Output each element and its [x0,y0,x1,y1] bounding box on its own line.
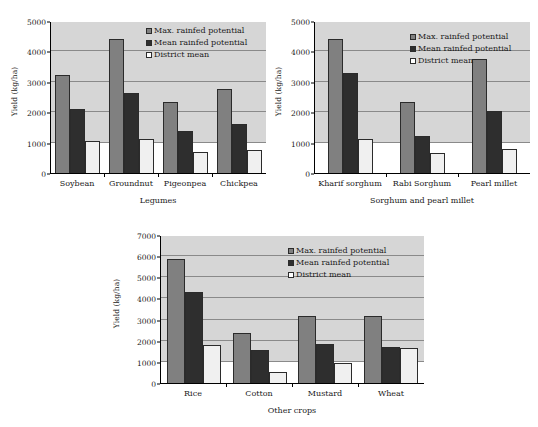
y-axis-title-text: Yield (kg/ha) [275,66,284,116]
legend-swatch-icon [146,52,152,58]
chart-panel-legumes: Yield (kg/ha)010002000300040005000Soybea… [8,8,270,216]
bar-district-mean [193,152,208,173]
legend-label: District mean [296,270,351,279]
x-axis-tick-label: Cotton [226,389,292,398]
x-axis-tick-mark [292,384,293,387]
y-axis-ticks: 010002000300040005000 [288,8,314,216]
x-axis-tick-mark [158,174,159,177]
y-axis-title: Yield (kg/ha) [110,222,124,384]
bar-district-mean [247,150,262,173]
y-axis-tick-label: 0 [151,380,156,389]
bar-district-mean [269,372,287,383]
x-axis-tick-label: Mustard [292,389,358,398]
legend-item: Mean rainfed potential [410,44,511,53]
bar-district-mean [358,139,373,173]
chart-legend: Max. rainfed potentialMean rainfed poten… [410,32,511,65]
bar-group [161,236,227,383]
bar-mean-rainfed-potential [382,347,400,383]
bar-group [227,236,293,383]
y-axis-tick-label: 3000 [291,78,310,87]
bar-max-rainfed-potential [55,75,70,173]
bar-district-mean [502,149,517,173]
bar-max-rainfed-potential [364,316,382,383]
x-axis-tick-mark [104,174,105,177]
y-axis-tick-label: 3000 [137,316,156,325]
bar-max-rainfed-potential [217,89,232,173]
x-axis-tick-label: Pearl millet [458,179,530,188]
bar-district-mean [203,345,221,383]
x-axis-tick-mark [386,174,387,177]
bar-mean-rainfed-potential [232,124,247,173]
bar-mean-rainfed-potential [70,109,85,173]
y-axis-tick-label: 2000 [291,109,310,118]
bar-max-rainfed-potential [400,102,415,173]
x-axis-tick-mark [212,174,213,177]
x-axis-tick-label: Pigeonpea [158,179,212,188]
legend-label: District mean [154,50,209,59]
legend-label: Mean rainfed potential [418,44,511,53]
y-axis-tick-label: 1000 [291,139,310,148]
bar-mean-rainfed-potential [316,344,334,383]
y-axis-tick-label: 5000 [27,18,46,27]
y-axis-ticks: 01000200030004000500060007000 [134,222,160,422]
chart-panel-sorghum-pearl-millet: Yield (kg/ha)010002000300040005000Kharif… [272,8,534,216]
x-axis-title: Legumes [50,196,266,205]
bar-mean-rainfed-potential [487,111,502,173]
bar-district-mean [430,153,445,173]
y-axis-tick-label: 1000 [137,358,156,367]
bar-max-rainfed-potential [298,316,316,383]
x-axis-tick-label: Groundnut [104,179,158,188]
x-axis-tick-mark [226,384,227,387]
x-axis-tick-label: Chickpea [212,179,266,188]
y-axis-title: Yield (kg/ha) [272,8,286,174]
x-axis-tick-label: Kharif sorghum [314,179,386,188]
y-axis-tick-label: 2000 [137,337,156,346]
chart-legend: Max. rainfed potentialMean rainfed poten… [288,246,389,279]
x-axis-tick-label: Wheat [358,389,424,398]
legend-label: Max. rainfed potential [418,32,508,41]
x-axis-tick-labels: RiceCottonMustardWheat [160,389,424,398]
bar-mean-rainfed-potential [343,73,358,173]
bar-max-rainfed-potential [328,39,343,173]
legend-item: District mean [288,270,389,279]
y-axis-title-text: Yield (kg/ha) [11,66,20,116]
y-axis-title: Yield (kg/ha) [8,8,22,174]
y-axis-tick-label: 4000 [137,295,156,304]
legend-swatch-icon [146,28,152,34]
legend-swatch-icon [146,40,152,46]
y-axis-tick-label: 2000 [27,109,46,118]
legend-item: Max. rainfed potential [410,32,511,41]
bar-district-mean [334,363,352,383]
y-axis-tick-label: 6000 [137,253,156,262]
x-axis-tick-label: Rabi Sorghum [386,179,458,188]
legend-label: Max. rainfed potential [296,246,386,255]
legend-swatch-icon [288,260,294,266]
legend-item: District mean [410,56,511,65]
legend-item: Max. rainfed potential [288,246,389,255]
legend-swatch-icon [288,272,294,278]
bar-mean-rainfed-potential [124,93,139,173]
legend-swatch-icon [410,46,416,52]
bar-max-rainfed-potential [167,259,185,383]
bar-max-rainfed-potential [472,59,487,173]
x-axis-tick-label: Soybean [50,179,104,188]
bar-mean-rainfed-potential [185,292,203,383]
bar-district-mean [400,348,418,383]
bar-max-rainfed-potential [163,102,178,173]
x-axis-title: Sorghum and pearl millet [314,196,530,205]
legend-label: District mean [418,56,473,65]
x-axis-tick-mark [358,384,359,387]
y-axis-title-text: Yield (kg/ha) [113,278,122,328]
bar-group [51,22,105,173]
y-axis-tick-label: 5000 [291,18,310,27]
legend-swatch-icon [288,248,294,254]
bar-mean-rainfed-potential [415,136,430,173]
x-axis-title: Other crops [160,406,424,415]
x-axis-tick-mark [458,174,459,177]
y-axis-tick-label: 4000 [27,48,46,57]
bar-group [315,22,387,173]
bar-max-rainfed-potential [233,333,251,383]
legend-item: District mean [146,50,247,59]
legend-label: Mean rainfed potential [154,38,247,47]
x-axis-tick-label: Rice [160,389,226,398]
